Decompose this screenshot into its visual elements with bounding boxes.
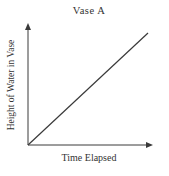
x-axis-label: Time Elapsed [28,152,150,163]
plot-area [0,0,169,176]
chart-figure: Vase A Height of Water in Vase Time Elap… [0,0,169,176]
data-line [28,33,148,145]
